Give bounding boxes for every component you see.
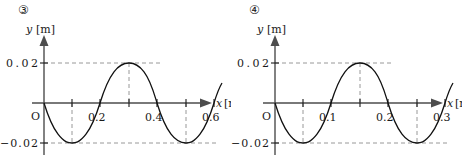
x-tick-label-0.3-4: 0.3 <box>433 111 451 124</box>
chart-4: y [m] x [m] O 0.02 −0.02 0.1 0.2 0.3 <box>231 0 462 163</box>
chart-3: y [m] x [m] O 0.02 −0.02 0.2 0.4 0.6 <box>0 0 231 163</box>
x-tick-label-0.4-3: 0.4 <box>145 111 163 124</box>
figure-row: ③ <box>0 0 463 163</box>
figure-panel-3: ③ <box>0 0 231 163</box>
x-axis-arrowhead-4 <box>431 99 443 108</box>
x-tick-label-0.2-3: 0.2 <box>88 111 106 124</box>
y-tick-label-lower-3: −0.02 <box>0 137 38 150</box>
y-axis-label-symbol-3: y <box>25 23 33 36</box>
x-tick-label-0.2-4: 0.2 <box>376 111 394 124</box>
y-axis-label-symbol-4: y <box>256 23 264 36</box>
y-tick-label-upper-3: 0.02 <box>6 57 38 70</box>
y-axis-label-unit-4: [m] <box>267 23 286 36</box>
y-axis-arrowhead-3 <box>40 35 49 46</box>
x-tick-label-0.6-3: 0.6 <box>202 111 220 124</box>
x-axis-arrowhead-3 <box>200 99 212 108</box>
x-tick-label-0.1-4: 0.1 <box>319 111 337 124</box>
figure-panel-4: ④ y [m] <box>231 0 462 163</box>
origin-label-3: O <box>31 110 40 123</box>
y-tick-label-lower-4: −0.02 <box>231 137 269 150</box>
x-axis-label-symbol-4: x <box>447 97 454 110</box>
y-axis-label-unit-3: [m] <box>36 23 55 36</box>
x-axis-label-unit-3: [m] <box>224 97 231 110</box>
origin-label-4: O <box>262 110 271 123</box>
y-tick-label-upper-4: 0.02 <box>237 57 269 70</box>
x-axis-label-unit-4: [m] <box>455 97 462 110</box>
y-axis-arrowhead-4 <box>271 35 280 46</box>
x-axis-label-symbol-3: x <box>216 97 223 110</box>
